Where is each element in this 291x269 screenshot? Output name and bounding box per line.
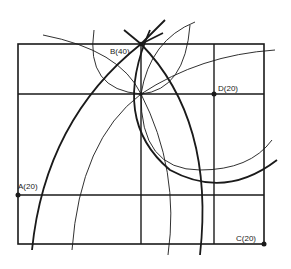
point-a	[16, 193, 21, 198]
label-b: B(40)	[110, 47, 130, 56]
intersection-point	[139, 92, 143, 96]
label-a: A(20)	[18, 182, 38, 191]
construction-diagram: A(20) B(40) C(20) D(20)	[0, 0, 291, 269]
construction-line	[141, 33, 163, 44]
point-b	[139, 42, 143, 46]
construction-line	[124, 30, 141, 44]
point-c	[262, 242, 267, 247]
arc-bottom-thick	[134, 30, 277, 183]
arc-thin	[141, 94, 272, 170]
arc-left-thick	[32, 20, 165, 250]
point-d	[212, 92, 217, 97]
label-d: D(20)	[218, 84, 238, 93]
label-c: C(20)	[236, 234, 256, 243]
